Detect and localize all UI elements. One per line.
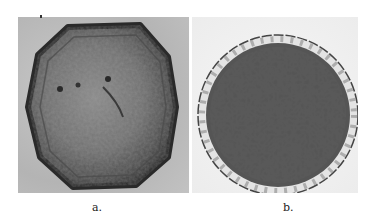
specimen-speck bbox=[40, 15, 42, 18]
micrograph-panel-a bbox=[18, 17, 189, 193]
reticulate-grain-image bbox=[192, 17, 358, 193]
panel-label-a: a. bbox=[92, 201, 102, 214]
micrograph-panel-b bbox=[192, 17, 358, 193]
panel-label-b: b. bbox=[283, 201, 294, 214]
hexagonal-grain-image bbox=[18, 17, 189, 193]
